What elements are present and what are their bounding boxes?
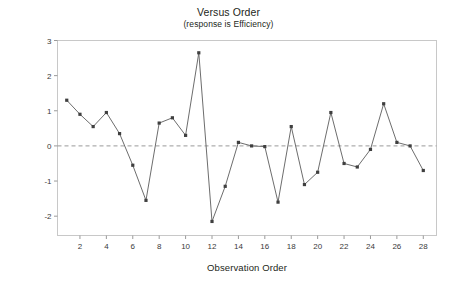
y-tick-label: 0 <box>47 142 52 151</box>
x-tick-label: 22 <box>340 242 349 251</box>
data-point-marker <box>78 113 81 116</box>
x-tick-label: 24 <box>366 242 375 251</box>
x-tick-label: 8 <box>157 242 162 251</box>
data-point-marker <box>237 141 240 144</box>
data-point-marker <box>290 125 293 128</box>
x-tick-label: 6 <box>131 242 136 251</box>
data-point-marker <box>276 201 279 204</box>
data-point-marker <box>329 111 332 114</box>
data-point-marker <box>224 185 227 188</box>
plot-area: -2-10123 246810121416182022242628 <box>0 0 457 286</box>
x-tick-label: 16 <box>260 242 269 251</box>
y-tick-label: 1 <box>47 107 52 116</box>
data-point-marker <box>210 220 213 223</box>
x-tick-label: 26 <box>392 242 401 251</box>
data-point-marker <box>250 144 253 147</box>
plot-frame <box>58 41 437 236</box>
data-point-marker <box>356 165 359 168</box>
x-tick-label: 14 <box>234 242 243 251</box>
data-point-marker <box>422 169 425 172</box>
data-point-marker <box>342 162 345 165</box>
data-point-marker <box>144 199 147 202</box>
x-tick-label: 28 <box>419 242 428 251</box>
x-tick-label: 12 <box>208 242 217 251</box>
data-point-marker <box>92 125 95 128</box>
x-tick-label: 2 <box>78 242 83 251</box>
data-point-marker <box>105 111 108 114</box>
versus-order-chart: Versus Order (response is Efficiency) St… <box>0 0 457 286</box>
y-tick-label: 2 <box>47 72 52 81</box>
data-point-marker <box>316 171 319 174</box>
y-tick-label: -1 <box>44 177 52 186</box>
x-axis-ticks: 246810121416182022242628 <box>78 236 429 251</box>
data-point-marker <box>158 121 161 124</box>
data-point-marker <box>382 102 385 105</box>
data-point-marker <box>369 148 372 151</box>
y-axis-ticks: -2-10123 <box>44 37 57 222</box>
data-point-marker <box>408 144 411 147</box>
data-point-marker <box>197 51 200 54</box>
data-point-marker <box>184 134 187 137</box>
x-tick-label: 4 <box>104 242 109 251</box>
x-tick-label: 10 <box>181 242 190 251</box>
y-tick-label: 3 <box>47 37 52 46</box>
data-point-marker <box>65 99 68 102</box>
y-tick-label: -2 <box>44 212 52 221</box>
x-tick-label: 20 <box>313 242 322 251</box>
data-point-marker <box>263 145 266 148</box>
x-tick-label: 18 <box>287 242 296 251</box>
data-point-marker <box>395 141 398 144</box>
data-point-marker <box>303 183 306 186</box>
data-point-marker <box>171 116 174 119</box>
data-point-marker <box>118 132 121 135</box>
data-point-marker <box>131 164 134 167</box>
